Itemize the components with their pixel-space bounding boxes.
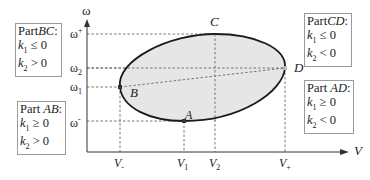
tick-omega-1-sub: 1 xyxy=(78,87,82,96)
x-axis-label: V xyxy=(354,143,362,159)
box-part-cd-prefix: Part xyxy=(307,14,327,28)
box-part-bc-k2: k2 > 0 xyxy=(18,57,58,75)
box-part-ab-part: AB xyxy=(43,102,58,116)
tick-omega-2-base: ω xyxy=(70,61,78,75)
tick-v-plus-sub: + xyxy=(286,163,291,172)
tick-omega-2: ω2 xyxy=(70,61,82,77)
marker-b xyxy=(118,85,122,89)
tick-v-1: V1 xyxy=(177,156,188,172)
tick-v-2: V2 xyxy=(209,156,220,172)
box-part-ab: Part AB: k1 ≥ 0 k2 > 0 xyxy=(17,101,66,155)
box-part-ab-title: Part AB: xyxy=(20,103,62,117)
box-part-bc-prefix: Part xyxy=(18,24,38,38)
marker-d xyxy=(283,66,287,70)
tick-omega-2-sub: 2 xyxy=(78,68,82,77)
box-part-cd-title: PartCD: xyxy=(307,15,348,29)
box-part-bc: PartBC: k1 ≤ 0 k2 > 0 xyxy=(15,23,62,77)
tick-omega-plus-base: ω xyxy=(70,27,78,41)
y-axis-arrow-icon xyxy=(84,19,90,27)
tick-v-1-sub: 1 xyxy=(184,163,188,172)
box-part-ad: Part AD: k1 ≥ 0 k2 < 0 xyxy=(304,80,354,134)
point-label-b: B xyxy=(130,85,138,101)
box-part-bc-k1: k1 ≤ 0 xyxy=(18,39,58,57)
box-part-ab-prefix: Part xyxy=(20,102,43,116)
box-part-bc-k1-rel: ≤ 0 xyxy=(28,38,47,52)
tick-v-minus: V- xyxy=(114,156,124,172)
box-part-bc-suffix: : xyxy=(54,24,57,38)
box-part-ad-part: AD xyxy=(330,81,347,95)
box-part-cd-suffix: : xyxy=(345,14,348,28)
tick-v-minus-sub: - xyxy=(121,163,124,172)
box-part-ad-title: Part AD: xyxy=(307,82,350,96)
tick-omega-plus-sup: + xyxy=(78,26,83,35)
y-axis-label: ω xyxy=(82,3,91,19)
box-part-ad-k1-rel: ≥ 0 xyxy=(317,95,336,109)
tick-v-2-sub: 2 xyxy=(216,163,220,172)
box-part-ad-k2-rel: < 0 xyxy=(317,113,337,127)
point-label-d: D xyxy=(294,60,303,76)
box-part-bc-title: PartBC: xyxy=(18,25,58,39)
point-label-a: A xyxy=(185,108,192,123)
point-label-c: C xyxy=(210,14,219,30)
box-part-cd-k2: k2 < 0 xyxy=(307,47,348,65)
tick-omega-1-base: ω xyxy=(70,80,78,94)
tick-omega-1: ω1 xyxy=(70,80,82,96)
box-part-ad-prefix: Part xyxy=(307,81,330,95)
tick-omega-plus: ω+ xyxy=(70,26,82,42)
box-part-ad-k1: k1 ≥ 0 xyxy=(307,96,350,114)
box-part-cd-k1: k1 ≤ 0 xyxy=(307,29,348,47)
box-part-ab-k1: k1 ≥ 0 xyxy=(20,117,62,135)
tick-v-plus: V+ xyxy=(279,156,291,172)
box-part-cd-part: CD xyxy=(327,14,344,28)
tick-omega-minus: ω- xyxy=(70,115,81,131)
box-part-bc-part: BC xyxy=(38,24,54,38)
box-part-cd: PartCD: k1 ≤ 0 k2 < 0 xyxy=(304,13,352,67)
box-part-ad-k2: k2 < 0 xyxy=(307,114,350,132)
box-part-ab-k1-rel: ≥ 0 xyxy=(30,116,49,130)
box-part-ab-k2-rel: > 0 xyxy=(30,134,50,148)
box-part-cd-k2-rel: < 0 xyxy=(317,46,337,60)
tick-omega-minus-base: ω xyxy=(70,116,78,130)
box-part-ad-suffix: : xyxy=(347,81,350,95)
box-part-bc-k2-rel: > 0 xyxy=(28,56,48,70)
x-axis-arrow-icon xyxy=(340,149,349,155)
box-part-cd-k1-rel: ≤ 0 xyxy=(317,28,336,42)
box-part-ab-suffix: : xyxy=(59,102,62,116)
box-part-ab-k2: k2 > 0 xyxy=(20,135,62,153)
tick-omega-minus-sup: - xyxy=(78,115,81,124)
